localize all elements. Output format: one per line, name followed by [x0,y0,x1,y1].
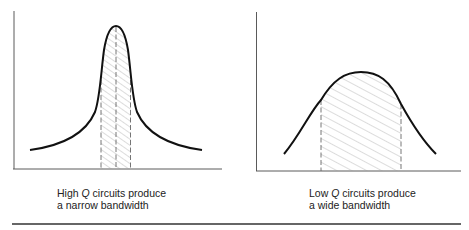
right-caption-line1: Low Q circuits produce [309,187,416,199]
right-graph-low-q [256,12,461,172]
left-caption-post: circuits produce [90,187,166,199]
left-caption: High Q circuits produce a narrow bandwid… [57,187,166,211]
left-caption-q-symbol: Q [82,187,90,199]
left-caption-line1: High Q circuits produce [57,187,166,199]
left-caption-pre: High [57,187,82,199]
right-caption-line2: a wide bandwidth [309,199,416,211]
left-graph-high-q [13,11,222,170]
right-caption-pre: Low [309,187,331,199]
right-caption: Low Q circuits produce a wide bandwidth [309,187,416,211]
right-caption-post: circuits produce [339,187,415,199]
left-caption-line2: a narrow bandwidth [57,199,166,211]
